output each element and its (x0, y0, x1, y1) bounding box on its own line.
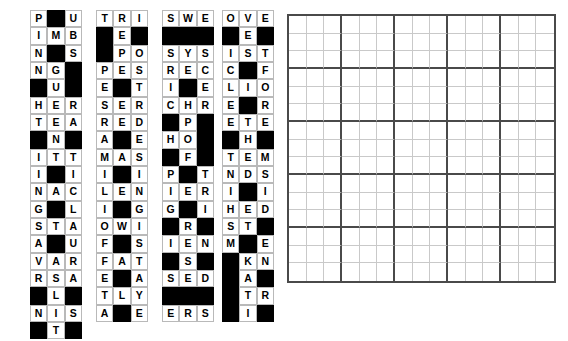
board-cell[interactable] (289, 69, 307, 87)
board-cell[interactable] (324, 157, 342, 175)
board-cell[interactable] (430, 16, 448, 34)
board-cell[interactable] (413, 51, 431, 69)
blocked-cell[interactable] (47, 166, 64, 183)
board-cell[interactable] (430, 193, 448, 211)
piece-tray[interactable]: PUIMBNSTRIEPOSWESYSOVEEISTNGUHERPESETSER… (0, 0, 282, 341)
board-cell[interactable] (413, 228, 431, 246)
letter-cell[interactable]: H (30, 97, 47, 114)
blocked-cell[interactable] (197, 114, 214, 131)
board-cell[interactable] (360, 263, 378, 281)
board-cell[interactable] (536, 16, 554, 34)
board-cell[interactable] (289, 87, 307, 105)
blocked-cell[interactable] (179, 166, 196, 183)
board-cell[interactable] (360, 246, 378, 264)
board-cell[interactable] (448, 210, 466, 228)
blocked-cell[interactable] (179, 287, 196, 304)
board-cell[interactable] (289, 263, 307, 281)
board-cell[interactable] (342, 246, 360, 264)
puzzle-piece[interactable]: IINACGL (30, 166, 82, 218)
board-cell[interactable] (395, 16, 413, 34)
board-cell[interactable] (413, 157, 431, 175)
letter-cell[interactable]: C (65, 183, 82, 200)
board-cell[interactable] (377, 87, 395, 105)
board-cell[interactable] (377, 228, 395, 246)
puzzle-piece[interactable]: STAAUVAR (30, 218, 82, 270)
board-cell[interactable] (448, 51, 466, 69)
board-cell[interactable] (483, 87, 501, 105)
blocked-cell[interactable] (65, 79, 82, 96)
puzzle-piece[interactable]: TRIEPO (96, 10, 148, 62)
letter-cell[interactable]: I (131, 218, 148, 235)
board-cell[interactable] (466, 228, 484, 246)
letter-cell[interactable]: D (197, 270, 214, 287)
blocked-cell[interactable] (30, 79, 47, 96)
letter-cell[interactable]: S (30, 218, 47, 235)
letter-cell[interactable]: A (96, 305, 113, 322)
board-cell[interactable] (501, 104, 519, 122)
letter-cell[interactable]: U (65, 235, 82, 252)
board-cell[interactable] (377, 34, 395, 52)
puzzle-piece[interactable]: PHOF (162, 114, 214, 166)
letter-cell[interactable]: A (131, 270, 148, 287)
board-cell[interactable] (536, 228, 554, 246)
board-cell[interactable] (324, 104, 342, 122)
letter-cell[interactable]: G (162, 201, 179, 218)
letter-cell[interactable]: S (162, 45, 179, 62)
letter-cell[interactable]: N (257, 253, 274, 270)
board-cell[interactable] (360, 122, 378, 140)
board-cell[interactable] (448, 16, 466, 34)
board-cell[interactable] (448, 104, 466, 122)
puzzle-piece[interactable]: NGUHER (30, 62, 82, 114)
letter-cell[interactable]: I (30, 166, 47, 183)
letter-cell[interactable]: S (47, 270, 64, 287)
letter-cell[interactable]: T (239, 287, 256, 304)
puzzle-piece[interactable]: OVEEIST (222, 10, 274, 62)
board-cell[interactable] (342, 51, 360, 69)
puzzle-piece[interactable]: RECIECHR (162, 62, 214, 114)
puzzle-piece[interactable]: NDSIIHED (222, 166, 274, 218)
board-cell[interactable] (395, 140, 413, 158)
letter-cell[interactable]: T (197, 166, 214, 183)
letter-cell[interactable]: E (96, 270, 113, 287)
board-cell[interactable] (430, 69, 448, 87)
board-cell[interactable] (307, 87, 325, 105)
board-cell[interactable] (519, 210, 537, 228)
letter-cell[interactable]: T (65, 149, 82, 166)
board-cell[interactable] (413, 140, 431, 158)
board-cell[interactable] (377, 51, 395, 69)
board-cell[interactable] (377, 122, 395, 140)
assembly-board-container[interactable] (287, 14, 556, 283)
board-cell[interactable] (448, 228, 466, 246)
letter-cell[interactable]: S (179, 253, 196, 270)
blocked-cell[interactable] (30, 131, 47, 148)
blocked-cell[interactable] (257, 305, 274, 322)
letter-cell[interactable]: S (197, 45, 214, 62)
board-cell[interactable] (324, 16, 342, 34)
board-cell[interactable] (519, 51, 537, 69)
board-cell[interactable] (324, 51, 342, 69)
letter-cell[interactable]: I (257, 183, 274, 200)
board-cell[interactable] (377, 157, 395, 175)
letter-cell[interactable]: T (131, 253, 148, 270)
letter-cell[interactable]: M (96, 149, 113, 166)
letter-cell[interactable]: V (30, 253, 47, 270)
letter-cell[interactable]: A (65, 270, 82, 287)
board-cell[interactable] (483, 157, 501, 175)
blocked-cell[interactable] (222, 305, 239, 322)
letter-cell[interactable]: E (131, 131, 148, 148)
board-cell[interactable] (360, 34, 378, 52)
puzzle-piece[interactable]: PESETSER (96, 62, 148, 114)
board-cell[interactable] (324, 263, 342, 281)
puzzle-piece[interactable]: CFLIOER (222, 62, 274, 114)
blocked-cell[interactable] (162, 287, 179, 304)
board-cell[interactable] (395, 69, 413, 87)
board-cell[interactable] (307, 122, 325, 140)
board-cell[interactable] (307, 69, 325, 87)
letter-cell[interactable]: T (47, 149, 64, 166)
board-cell[interactable] (501, 157, 519, 175)
letter-cell[interactable]: R (179, 305, 196, 322)
letter-cell[interactable]: M (222, 235, 239, 252)
board-cell[interactable] (430, 140, 448, 158)
letter-cell[interactable]: O (131, 45, 148, 62)
board-cell[interactable] (536, 193, 554, 211)
